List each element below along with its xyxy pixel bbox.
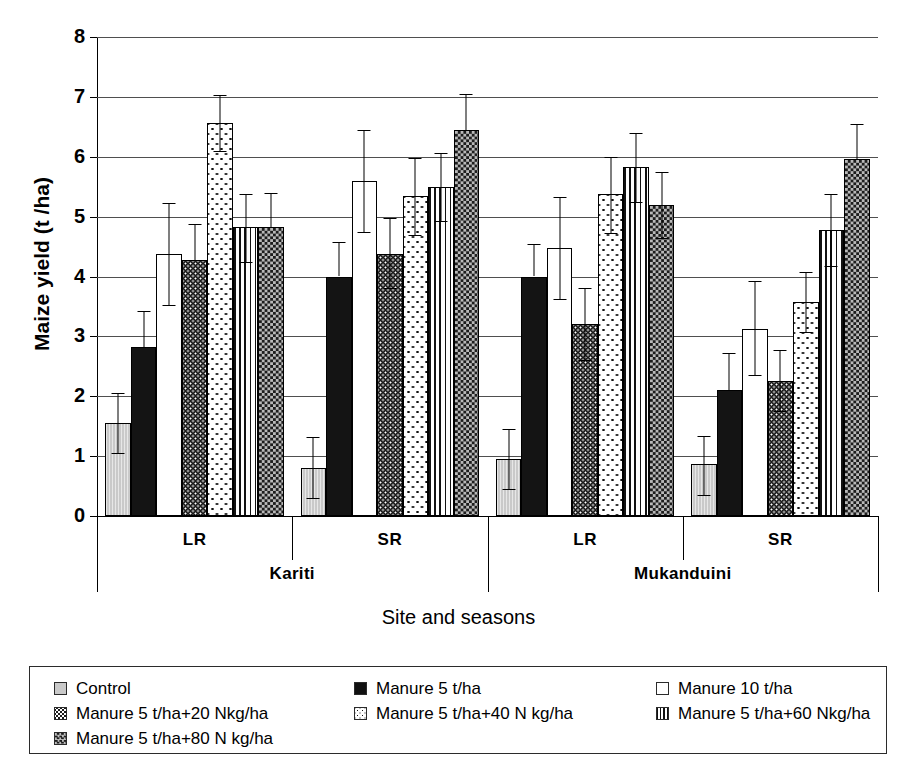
legend-label: Manure 5 t/ha+60 Nkg/ha	[678, 705, 870, 722]
legend-item[interactable]: Control	[54, 680, 354, 697]
error-bar-stem	[703, 436, 704, 495]
error-bar-cap-bottom	[409, 235, 422, 236]
x-axis-separator	[878, 516, 879, 592]
error-bar-stem	[661, 172, 662, 238]
error-bar	[819, 194, 845, 265]
y-tick-label-0: 0	[45, 505, 85, 525]
error-bar	[403, 158, 429, 235]
bar	[233, 227, 259, 516]
x-axis-season-label: LR	[488, 530, 683, 550]
error-bar-cap-bottom	[239, 262, 252, 263]
x-axis-season-label: SR	[292, 530, 487, 550]
error-bar-cap-bottom	[358, 232, 371, 233]
error-bar-cap-top	[799, 272, 812, 273]
error-bar-stem	[831, 194, 832, 265]
error-bar-cap-bottom	[655, 238, 668, 239]
legend-box: ControlManure 5 t/haManure 10 t/haManure…	[29, 666, 887, 754]
error-bar-cap-top	[774, 350, 787, 351]
legend-label: Control	[76, 680, 131, 697]
legend-item[interactable]: Manure 5 t/ha+40 N kg/ha	[354, 705, 656, 722]
y-tick-mark-1	[90, 456, 97, 457]
bar	[717, 390, 743, 516]
error-bar-cap-top	[214, 95, 227, 96]
error-bar-cap-top	[579, 288, 592, 289]
error-bar	[598, 157, 624, 234]
legend-item[interactable]: Manure 5 t/ha+60 Nkg/ha	[656, 705, 906, 722]
error-bar-cap-top	[137, 311, 150, 312]
y-tick-mark-4	[90, 277, 97, 278]
error-bar-cap-top	[502, 429, 515, 430]
error-bar-cap-top	[528, 244, 541, 245]
bar	[844, 159, 870, 516]
error-bar	[326, 242, 352, 277]
bar	[131, 347, 157, 516]
error-bar	[742, 281, 768, 375]
error-bar-cap-top	[409, 158, 422, 159]
x-axis-site-label: Mukanduini	[488, 564, 879, 584]
error-bar	[258, 193, 284, 228]
error-bar-cap-bottom	[112, 453, 125, 454]
y-tick-mark-8	[90, 37, 97, 38]
error-bar-cap-top	[434, 153, 447, 154]
bar	[649, 205, 675, 516]
error-bar	[717, 353, 743, 390]
error-bar	[793, 272, 819, 332]
legend-item[interactable]: Manure 5 t/ha	[354, 680, 656, 697]
error-bar-cap-bottom	[214, 151, 227, 152]
y-axis-title: Maize yield (t /ha)	[30, 134, 54, 394]
error-bar-stem	[245, 194, 246, 261]
error-bar-stem	[364, 130, 365, 232]
error-bar-cap-bottom	[748, 375, 761, 376]
error-bar	[623, 133, 649, 202]
legend-item[interactable]: Manure 10 t/ha	[656, 680, 906, 697]
x-axis-season-label: LR	[97, 530, 292, 550]
error-bar-stem	[534, 244, 535, 277]
legend-swatch-icon	[54, 707, 67, 720]
legend-label: Manure 5 t/ha	[376, 680, 481, 697]
bar-group-mukanduini-lr	[488, 37, 683, 516]
bar	[598, 194, 624, 516]
y-tick-mark-0	[90, 516, 97, 517]
error-bar-stem	[636, 133, 637, 202]
y-tick-label-1: 1	[45, 445, 85, 465]
error-bar-stem	[780, 350, 781, 412]
legend-swatch-icon	[354, 707, 367, 720]
error-bar-cap-top	[655, 172, 668, 173]
error-bar-stem	[440, 153, 441, 222]
error-bar	[207, 95, 233, 151]
legend-label: Manure 5 t/ha+80 N kg/ha	[76, 730, 273, 747]
error-bar-cap-top	[697, 436, 710, 437]
error-bar-cap-top	[265, 193, 278, 194]
y-tick-mark-6	[90, 157, 97, 158]
error-bar	[131, 311, 157, 347]
bar	[207, 123, 233, 516]
legend-item[interactable]: Manure 5 t/ha+80 N kg/ha	[54, 730, 354, 747]
legend-item[interactable]: Manure 5 t/ha+20 Nkg/ha	[54, 705, 354, 722]
error-bar-stem	[508, 429, 509, 489]
bar	[258, 227, 284, 516]
error-bar-cap-bottom	[163, 305, 176, 306]
error-bar-cap-bottom	[825, 266, 838, 267]
bar	[428, 187, 454, 516]
error-bar-stem	[143, 311, 144, 347]
bar-group-mukanduini-sr	[683, 37, 878, 516]
bar	[377, 254, 403, 516]
error-bar-cap-top	[553, 197, 566, 198]
legend-row: Manure 5 t/ha+20 Nkg/haManure 5 t/ha+40 …	[54, 701, 886, 726]
legend-swatch-icon	[54, 732, 67, 745]
error-bar-stem	[559, 197, 560, 299]
error-bar	[352, 130, 378, 232]
error-bar	[572, 288, 598, 360]
error-bar-cap-top	[630, 133, 643, 134]
y-tick-label-6: 6	[45, 146, 85, 166]
error-bar-cap-bottom	[630, 202, 643, 203]
y-tick-label-2: 2	[45, 385, 85, 405]
error-bar-stem	[466, 94, 467, 130]
legend-swatch-icon	[656, 682, 669, 695]
error-bar-cap-top	[604, 157, 617, 158]
error-bar	[547, 197, 573, 299]
y-tick-mark-7	[90, 97, 97, 98]
error-bar-cap-bottom	[774, 411, 787, 412]
legend-row: Manure 5 t/ha+80 N kg/ha	[54, 726, 886, 751]
bar	[623, 167, 649, 516]
